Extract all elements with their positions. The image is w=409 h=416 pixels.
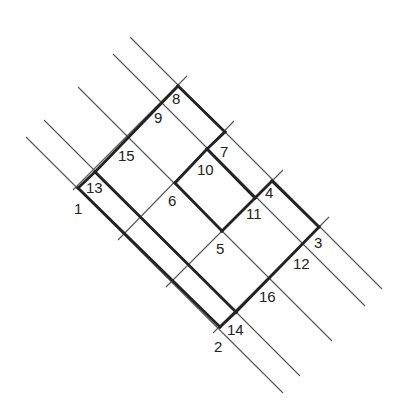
point-label-2: 2 [214,338,222,355]
point-label-1: 1 [74,200,82,217]
thin-line-L_a [26,137,283,393]
thick-segment-8-13 [95,86,178,172]
thick-segment-8-7 [178,86,225,132]
point-label-13: 13 [86,179,103,196]
point-label-4: 4 [265,184,273,201]
grid-diagram: 12345678910111213141516 [0,0,409,416]
point-label-7: 7 [220,143,228,160]
point-label-15: 15 [118,147,135,164]
point-label-8: 8 [172,90,180,107]
thick-outline-segments [78,86,319,327]
thin-line-L_e [130,37,382,289]
point-label-16: 16 [259,288,276,305]
point-label-11: 11 [246,205,262,222]
point-label-3: 3 [314,234,322,251]
thick-segment-13-14 [95,172,236,312]
thick-segment-10-11 [207,149,255,198]
thick-segment-6-5 [175,183,222,231]
point-label-5: 5 [216,240,224,257]
point-label-12: 12 [293,255,310,272]
point-label-9: 9 [154,109,162,126]
point-label-6: 6 [168,192,176,209]
point-label-14: 14 [227,321,244,338]
point-label-10: 10 [197,161,214,178]
